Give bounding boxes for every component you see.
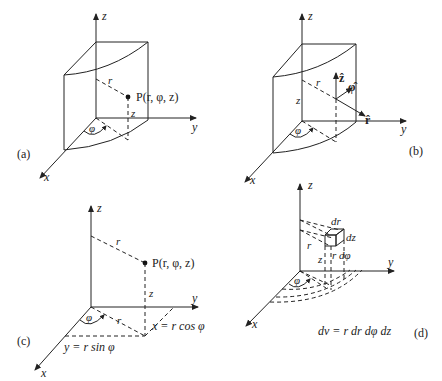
panel-label-b: (b) bbox=[409, 144, 423, 158]
phi-label: φ bbox=[89, 122, 95, 134]
point-p-label: P(r, φ, z) bbox=[136, 90, 178, 104]
r-projection bbox=[96, 118, 128, 140]
y-axis-label: y bbox=[400, 122, 407, 136]
dr-label: dr bbox=[331, 215, 342, 227]
phi-arc bbox=[290, 128, 313, 137]
z-axis-label: z bbox=[101, 9, 107, 23]
y-axis-label: y bbox=[191, 120, 198, 134]
x-equation: x = r cos φ bbox=[151, 319, 205, 333]
y-axis-label: y bbox=[191, 291, 198, 305]
phi-label: φ bbox=[86, 311, 92, 323]
point-p-label: P(r, φ, z) bbox=[152, 256, 194, 270]
x-axis bbox=[40, 118, 96, 178]
z-axis-label: z bbox=[307, 178, 313, 192]
r-label: r bbox=[108, 74, 113, 86]
r-hat-label: r̂ bbox=[365, 113, 371, 127]
cylinder-wedge bbox=[273, 44, 356, 153]
x-axis-label: x bbox=[249, 173, 256, 187]
panel-label-d: (d) bbox=[414, 326, 428, 340]
volume-equation: dv = r dr dφ dz bbox=[318, 324, 391, 338]
cylindrical-coordinates-figure: z y x r P(r, φ, z) z φ (a) z y x bbox=[0, 0, 442, 381]
r-label: r bbox=[116, 235, 121, 247]
rdphi-label: r dφ bbox=[332, 249, 351, 261]
volume-element-cube bbox=[325, 229, 344, 246]
y-equation: y = r sin φ bbox=[63, 340, 115, 354]
x-axis bbox=[35, 307, 91, 370]
z-label: z bbox=[130, 107, 136, 119]
r-label: r bbox=[307, 239, 312, 251]
z-label: z bbox=[295, 94, 301, 106]
phi-label: φ bbox=[295, 124, 301, 136]
panel-label-a: (a) bbox=[17, 147, 30, 161]
floor-arcs bbox=[270, 270, 362, 302]
z-hat-label: ẑ bbox=[339, 71, 345, 85]
phi-label: φ bbox=[294, 274, 300, 286]
y-axis-label: y bbox=[387, 255, 394, 269]
panel-d: z y x r dr dz r dφ z bbox=[246, 178, 428, 340]
z-axis-label: z bbox=[96, 201, 102, 215]
panel-c: z y x r P(r, φ, z) z r φ x = r cos φ y =… bbox=[17, 201, 205, 380]
panel-label-c: (c) bbox=[17, 334, 30, 348]
z-label: z bbox=[148, 287, 154, 299]
r-base-label: r bbox=[117, 314, 122, 326]
panel-a: z y x r P(r, φ, z) z φ (a) bbox=[17, 9, 198, 184]
x-axis-label: x bbox=[43, 170, 50, 184]
x-axis-label: x bbox=[251, 317, 258, 331]
panel-b: z y x z r r̂ ẑ φ̂ φ (b) bbox=[245, 9, 423, 187]
r-label: r bbox=[316, 76, 321, 88]
x-axis-label: x bbox=[40, 366, 47, 380]
z-axis-label: z bbox=[307, 9, 313, 23]
z-label: z bbox=[317, 253, 323, 265]
r-hat-arrow bbox=[336, 99, 365, 116]
dz-label: dz bbox=[346, 231, 357, 243]
